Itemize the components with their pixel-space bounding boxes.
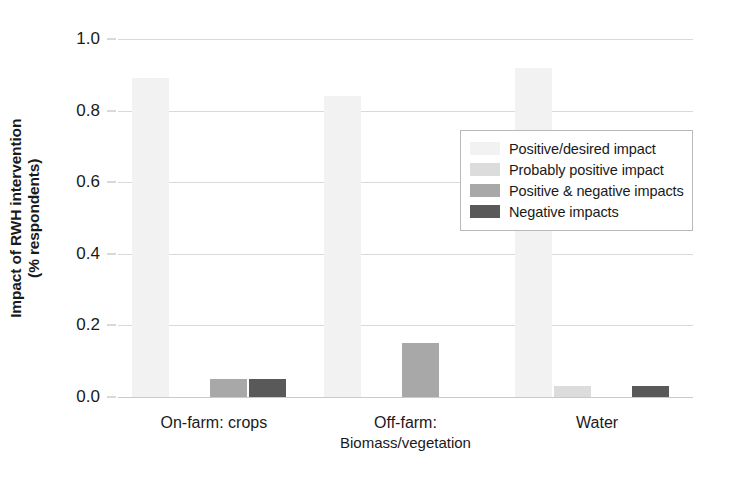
y-tick-mark-0.0 [107,397,116,398]
bar-2-3 [632,386,669,397]
legend-swatch-icon-1 [470,163,500,176]
legend-swatch-icon-0 [470,142,500,155]
bar-1-2 [402,343,439,397]
y-tick-mark-0.6 [107,182,116,183]
bar-0-0 [132,78,169,397]
x-axis-label-1-line1: Off-farm: [374,414,437,431]
y-tick-label-0.0: 0.0 [52,387,100,407]
chart-legend: Positive/desired impactProbably positive… [460,130,693,231]
y-tick-mark-0.8 [107,110,116,111]
x-axis-label-1-line2: Biomass/vegetation [310,433,502,452]
legend-label-3: Negative impacts [509,204,619,220]
y-tick-label-0.2: 0.2 [52,315,100,335]
legend-item-3[interactable]: Negative impacts [470,201,683,222]
y-axis-title-line2: (% respondents) [26,118,44,317]
y-tick-mark-0.2 [107,325,116,326]
gridline-1.0 [118,39,693,40]
legend-item-1[interactable]: Probably positive impact [470,159,683,180]
legend-label-2: Positive & negative impacts [509,183,684,199]
y-tick-label-0.6: 0.6 [52,172,100,192]
bar-2-0 [515,68,552,397]
legend-swatch-icon-3 [470,205,500,218]
y-tick-mark-0.4 [107,253,116,254]
y-tick-mark-1.0 [107,39,116,40]
y-tick-label-1.0: 1.0 [52,29,100,49]
gridline-0.2 [118,325,693,326]
x-axis-label-0: On-farm: crops [118,413,310,433]
x-axis-label-2-line1: Water [576,414,618,431]
gridline-0.8 [118,111,693,112]
gridline-0.4 [118,254,693,255]
bar-2-1 [554,386,591,397]
legend-label-0: Positive/desired impact [509,141,656,157]
bar-1-0 [324,96,361,397]
legend-item-2[interactable]: Positive & negative impacts [470,180,683,201]
bar-0-3 [249,379,286,397]
y-tick-label-0.8: 0.8 [52,101,100,121]
y-axis-title-line1: Impact of RWH intervention [8,118,25,317]
legend-item-0[interactable]: Positive/desired impact [470,138,683,159]
x-axis-label-0-line1: On-farm: crops [160,414,267,431]
x-axis-label-2: Water [501,413,693,433]
y-tick-label-0.4: 0.4 [52,244,100,264]
legend-swatch-icon-2 [470,184,500,197]
legend-label-1: Probably positive impact [509,162,664,178]
chart-figure: Impact of RWH intervention (% respondent… [0,0,739,480]
x-axis-label-1: Off-farm:Biomass/vegetation [310,413,502,453]
y-axis-title: Impact of RWH intervention (% respondent… [6,39,46,397]
bar-0-2 [210,379,247,397]
gridline-0.0 [118,397,693,398]
